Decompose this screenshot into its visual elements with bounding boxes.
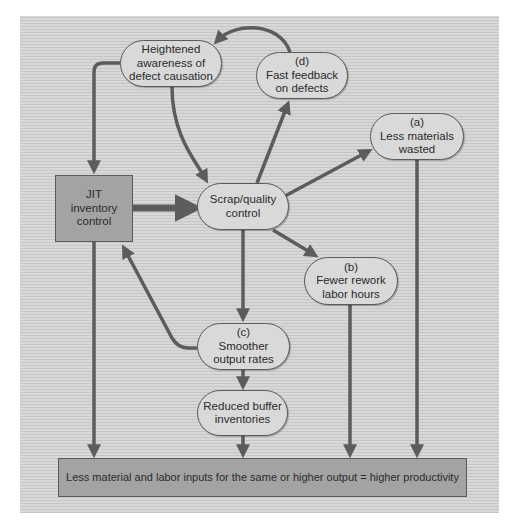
node-fewer-rework: (b) Fewer rework labor hours [304,257,398,305]
node-line: Smoother [219,340,269,354]
node-line: defect causation [129,70,213,84]
node-fast-feedback: (d) Fast feedback on defects [256,52,348,99]
node-tag: (d) [295,55,309,69]
productivity-text: Less material and labor inputs for the s… [66,471,459,485]
node-line: Reduced buffer [203,400,281,414]
node-line: Scrap/quality [210,193,276,207]
arrow-heightened-to-jit [94,63,120,168]
node-line: inventory [71,202,118,216]
node-line: inventories [215,413,271,427]
node-line: Heightened [142,43,201,57]
node-line: awareness of [137,57,205,71]
node-reduced-buffer: Reduced buffer inventories [197,390,288,436]
node-line: on defects [275,82,328,96]
node-heightened-awareness: Heightened awareness of defect causation [120,40,222,87]
node-line: output rates [213,353,274,367]
node-line: control [226,207,261,221]
node-line: JIT [86,188,102,202]
node-higher-productivity: Less material and labor inputs for the s… [58,458,467,497]
node-scrap-quality-control: Scrap/quality control [197,183,289,230]
arrow-scrap-to-feedback [257,106,287,183]
node-line: Fewer rework [316,274,386,288]
arrow-feedback-to-heightened [218,28,290,52]
arrow-scrap-to-rework [273,230,313,254]
node-tag: (c) [237,326,250,340]
node-line: labor hours [322,288,380,302]
arrow-scrap-to-materials [285,152,367,196]
arrow-smoother-to-jit [125,250,197,348]
node-line: Fast feedback [266,69,338,83]
node-smoother-output: (c) Smoother output rates [197,323,290,370]
node-line: Less materials [380,130,454,144]
node-line: control [77,215,112,229]
node-tag: (b) [344,261,358,275]
node-line: wasted [399,143,435,157]
node-less-materials: (a) Less materials wasted [370,113,464,160]
node-jit-inventory-control: JIT inventory control [55,175,133,242]
arrow-heightened-to-scrap [172,87,205,178]
node-tag: (a) [410,116,424,130]
